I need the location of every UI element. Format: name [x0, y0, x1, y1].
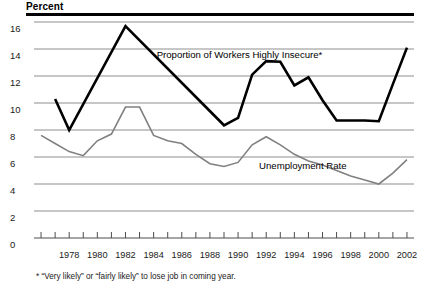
series-line-2 [41, 107, 407, 184]
gridlines-group [26, 15, 414, 212]
y-axis-label-4: 4 [10, 185, 30, 196]
y-axis-label-8: 8 [10, 131, 30, 142]
y-axis-label-6: 6 [10, 158, 30, 169]
y-axis-label-14: 14 [10, 50, 30, 61]
series-annotation-2: Unemployment Rate [259, 160, 346, 171]
x-axis-label-2002: 2002 [390, 250, 423, 260]
y-axis-label-0: 0 [10, 239, 30, 250]
y-axis-label-12: 12 [10, 77, 30, 88]
chart-figure: Percent 1614121086420 197819801982198419… [0, 0, 423, 295]
y-axis-title: Percent [26, 1, 63, 12]
y-axis-label-10: 10 [10, 104, 30, 115]
x-tick-marks-group [41, 232, 407, 238]
y-axis-label-16: 16 [10, 23, 30, 34]
series-annotation-1: Proportion of Workers Highly Insecure* [157, 49, 323, 60]
y-axis-label-2: 2 [10, 212, 30, 223]
series-line-1 [55, 26, 407, 130]
chart-footnote: * “Very likely” or “fairly likely” to lo… [36, 272, 236, 281]
